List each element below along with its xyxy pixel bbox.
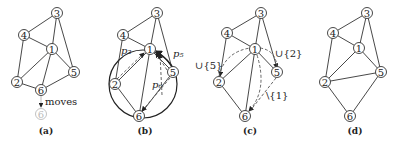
- node-2: 2: [214, 77, 225, 88]
- node-3: 3: [52, 8, 63, 19]
- svg-text:5: 5: [274, 67, 280, 78]
- svg-text:2: 2: [216, 77, 222, 88]
- node-2: 2: [110, 79, 121, 90]
- ghost-node-6: 6: [36, 109, 47, 120]
- caption-d: (d): [348, 126, 363, 136]
- p6-label: p₆: [152, 79, 162, 90]
- node-2: 2: [12, 77, 23, 88]
- svg-text:6: 6: [242, 111, 248, 122]
- node-4: 4: [328, 28, 339, 39]
- node-3: 3: [362, 8, 373, 19]
- svg-text:2: 2: [112, 79, 118, 90]
- node-5: 5: [168, 67, 179, 78]
- svg-text:3: 3: [258, 8, 264, 19]
- panel-b: p₂ p₅ p₆ 3 4 1 5 2 6 (b): [109, 8, 183, 137]
- svg-text:4: 4: [120, 30, 126, 41]
- svg-text:2: 2: [322, 77, 328, 88]
- svg-text:5: 5: [378, 67, 384, 78]
- svg-text:6: 6: [38, 85, 44, 96]
- svg-text:1: 1: [147, 44, 153, 55]
- node-5: 5: [69, 67, 80, 78]
- svg-text:1: 1: [49, 44, 55, 55]
- node-6: 6: [240, 111, 251, 122]
- node-1: 1: [145, 44, 156, 55]
- node-2: 2: [320, 77, 331, 88]
- svg-text:6: 6: [347, 111, 353, 122]
- svg-text:6: 6: [38, 109, 44, 120]
- svg-text:1: 1: [356, 43, 362, 54]
- node-6: 6: [345, 111, 356, 122]
- svg-text:3: 3: [364, 8, 370, 19]
- panel-d: 3 4 1 5 2 6 (d): [320, 8, 387, 137]
- node-6: 6: [36, 85, 47, 96]
- p2-label: p₂: [121, 45, 131, 56]
- node-3: 3: [256, 8, 267, 19]
- panel-a: moves 3 4 1 5 2 6 6 (a): [12, 8, 80, 137]
- svg-text:4: 4: [21, 30, 27, 41]
- caption-a: (a): [39, 126, 53, 136]
- union-5-label: ∪{5}: [195, 60, 222, 71]
- minus-1-label: \{1}: [266, 90, 288, 101]
- panel-c: ∪{5} ∪{2} \{1} 3 4 1 5 2 6 (c): [195, 8, 302, 137]
- node-5: 5: [376, 67, 387, 78]
- node-4: 4: [118, 30, 129, 41]
- node-4: 4: [19, 30, 30, 41]
- svg-text:2: 2: [14, 77, 20, 88]
- svg-text:1: 1: [252, 44, 258, 55]
- node-6: 6: [134, 111, 145, 122]
- node-1: 1: [250, 44, 261, 55]
- svg-text:3: 3: [154, 8, 160, 19]
- svg-text:3: 3: [54, 8, 60, 19]
- svg-text:6: 6: [136, 111, 142, 122]
- svg-text:4: 4: [330, 28, 336, 39]
- caption-b: (b): [138, 126, 153, 136]
- svg-text:5: 5: [170, 67, 176, 78]
- node-1: 1: [47, 44, 58, 55]
- figure: moves 3 4 1 5 2 6 6 (a) p₂ p₅ p₆ 3 4 1 5…: [0, 0, 398, 144]
- union-2-label: ∪{2}: [275, 48, 302, 59]
- moves-label: moves: [45, 96, 77, 107]
- svg-text:4: 4: [224, 28, 230, 39]
- svg-text:5: 5: [71, 67, 77, 78]
- caption-c: (c): [243, 126, 257, 136]
- p5-label: p₅: [173, 48, 183, 59]
- node-4: 4: [222, 28, 233, 39]
- node-3: 3: [152, 8, 163, 19]
- node-1: 1: [354, 43, 365, 54]
- node-5: 5: [272, 67, 283, 78]
